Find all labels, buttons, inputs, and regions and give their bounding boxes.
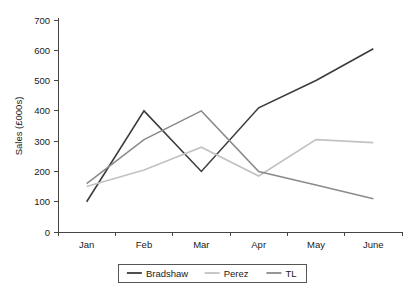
x-tick-label: June <box>363 239 384 250</box>
data-series-group <box>87 49 374 202</box>
y-axis-ticks <box>54 20 58 232</box>
line-chart-figure: 0100200300400500600700 JanFebMarAprMayJu… <box>0 0 419 293</box>
x-axis-group: JanFebMarAprMayJune <box>58 232 402 250</box>
x-tick-label: Mar <box>193 239 209 250</box>
x-tick-label: Apr <box>251 239 266 250</box>
y-tick-label: 400 <box>34 105 50 116</box>
legend-label-tl: TL <box>285 268 296 279</box>
series-line-perez <box>87 140 374 187</box>
x-tick-label: Feb <box>136 239 152 250</box>
x-axis-tick-labels: JanFebMarAprMayJune <box>79 239 384 250</box>
series-line-tl <box>87 111 374 199</box>
y-axis-tick-labels: 0100200300400500600700 <box>34 15 50 238</box>
x-tick-label: May <box>307 239 325 250</box>
y-tick-label: 200 <box>34 166 50 177</box>
y-tick-label: 500 <box>34 75 50 86</box>
y-tick-label: 600 <box>34 45 50 56</box>
chart-canvas: 0100200300400500600700 JanFebMarAprMayJu… <box>0 0 419 293</box>
series-line-bradshaw <box>87 49 374 202</box>
y-tick-label: 700 <box>34 15 50 26</box>
y-tick-label: 300 <box>34 136 50 147</box>
y-axis-title: Sales (£000s) <box>13 97 24 156</box>
x-tick-label: Jan <box>79 239 94 250</box>
x-axis-ticks <box>58 232 402 236</box>
y-tick-label: 0 <box>45 227 50 238</box>
legend: BradshawPerezTL <box>119 264 306 282</box>
legend-items: BradshawPerezTL <box>127 268 297 279</box>
y-axis-group: 0100200300400500600700 <box>34 15 58 238</box>
y-tick-label: 100 <box>34 196 50 207</box>
legend-label-perez: Perez <box>224 268 249 279</box>
legend-label-bradshaw: Bradshaw <box>146 268 188 279</box>
